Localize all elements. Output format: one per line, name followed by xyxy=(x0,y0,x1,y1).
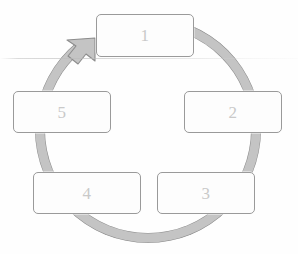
cycle-node-4-label: 4 xyxy=(83,185,92,202)
cycle-node-5[interactable]: 5 xyxy=(13,91,111,133)
cycle-node-2-label: 2 xyxy=(229,104,238,121)
cycle-node-2[interactable]: 2 xyxy=(184,91,282,133)
cycle-diagram-canvas: 1 2 3 4 5 xyxy=(0,0,298,254)
cycle-node-1-label: 1 xyxy=(141,27,150,44)
cycle-node-3[interactable]: 3 xyxy=(157,172,255,214)
cycle-node-5-label: 5 xyxy=(58,104,67,121)
cycle-node-4[interactable]: 4 xyxy=(33,172,141,214)
scan-artifact-line xyxy=(0,58,298,59)
cycle-node-3-label: 3 xyxy=(202,185,211,202)
cycle-node-1[interactable]: 1 xyxy=(96,14,194,57)
